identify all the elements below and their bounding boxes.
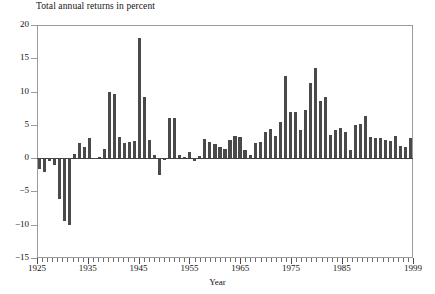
x-axis-tick-minor [311,258,312,262]
x-axis-tick-minor [316,258,317,262]
x-axis-tick-minor [149,258,150,262]
y-axis-label: 5 [0,119,29,129]
x-axis-tick-minor [98,258,99,262]
bar [83,147,86,158]
x-axis-tick-minor [123,258,124,262]
bar [404,147,407,158]
x-axis-tick-minor [347,258,348,262]
bar [158,158,161,175]
x-axis-title: Year [0,277,435,287]
x-axis-tick-minor [42,258,43,262]
x-axis-tick-minor [377,258,378,262]
x-axis-tick-minor [78,258,79,262]
x-axis-tick-minor [215,258,216,262]
bar [299,130,302,158]
x-axis-tick-minor [62,258,63,262]
x-axis-tick-minor [276,258,277,262]
bar [369,137,372,158]
x-axis-tick-minor [93,258,94,262]
bar [264,132,267,158]
x-axis-tick-minor [337,258,338,262]
bar [178,155,181,158]
bar [138,38,141,158]
x-axis-tick-minor [327,258,328,262]
x-axis-label: 1945 [123,263,155,273]
bar [374,138,377,159]
bar [58,158,61,199]
bar [349,150,352,158]
bar [183,157,186,158]
bar [344,132,347,159]
x-axis-tick-minor [220,258,221,262]
bar [309,83,312,158]
bar [394,136,397,159]
bar [223,149,226,158]
x-axis-tick-minor [144,258,145,262]
x-axis-label: 1955 [173,263,205,273]
x-axis-tick-minor [372,258,373,262]
x-axis-tick-minor [388,258,389,262]
x-axis-tick-minor [52,258,53,262]
bar [93,158,96,159]
bar [289,112,292,159]
x-axis-tick-minor [332,258,333,262]
y-axis-label: −15 [0,252,29,262]
bar [148,140,151,159]
x-axis-tick-minor [230,258,231,262]
x-axis-tick-minor [184,258,185,262]
x-axis-label: 1935 [72,263,104,273]
x-axis-tick-minor [179,258,180,262]
bar [384,140,387,158]
bar [279,122,282,158]
bar [133,141,136,158]
x-axis-tick-minor [255,258,256,262]
x-axis-tick-minor [250,258,251,262]
x-axis-tick-minor [266,258,267,262]
x-axis-tick-minor [403,258,404,262]
y-axis-label: −5 [0,185,29,195]
x-axis-tick-minor [352,258,353,262]
x-axis-tick-minor [245,258,246,262]
bar [254,143,257,158]
y-axis-label: −10 [0,219,29,229]
bar [118,137,121,158]
x-axis-tick-minor [322,258,323,262]
x-axis-tick-minor [225,258,226,262]
bar [218,147,221,158]
x-axis-tick-minor [393,258,394,262]
x-axis-tick-minor [271,258,272,262]
x-axis-label: 1925 [21,263,53,273]
bar [294,112,297,158]
bars-layer [37,25,413,258]
x-axis-tick-minor [103,258,104,262]
x-axis-tick-minor [73,258,74,262]
x-axis-tick-minor [200,258,201,262]
x-axis-tick-minor [286,258,287,262]
bar [203,139,206,158]
x-axis-tick-minor [408,258,409,262]
bar [213,144,216,158]
bar [168,118,171,158]
bar [198,156,201,158]
bar [274,136,277,158]
bar [314,68,317,158]
bar [259,142,262,158]
bar [48,158,51,161]
x-axis-tick-minor [57,258,58,262]
bar-chart: Total annual returns in percent −15−10−5… [0,0,435,294]
x-axis-tick-minor [210,258,211,262]
bar [53,158,56,165]
bar [163,158,166,160]
bar [339,128,342,159]
x-axis-tick-minor [357,258,358,262]
x-axis-tick-minor [159,258,160,262]
x-axis-tick-minor [128,258,129,262]
bar [354,125,357,158]
bar [108,92,111,158]
bar [319,101,322,158]
bar [359,124,362,159]
bar [68,158,71,225]
bar [113,94,116,158]
bar [364,116,367,159]
x-axis-label: 1965 [224,263,256,273]
